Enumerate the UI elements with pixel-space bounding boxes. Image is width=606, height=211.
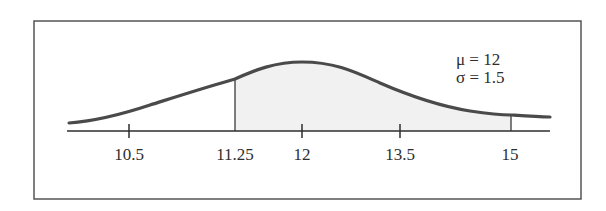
mu-annotation: μ = 12 <box>456 50 500 69</box>
tick-label-10-5: 10.5 <box>114 145 144 164</box>
sigma-annotation: σ = 1.5 <box>456 68 505 87</box>
normal-distribution-figure: 10.5 11.25 12 13.5 15 μ = 12 σ = 1.5 <box>0 0 606 211</box>
tick-label-13-5: 13.5 <box>385 145 415 164</box>
tick-label-11-25: 11.25 <box>216 145 254 164</box>
tick-label-15: 15 <box>502 145 519 164</box>
tick-label-12: 12 <box>294 145 311 164</box>
